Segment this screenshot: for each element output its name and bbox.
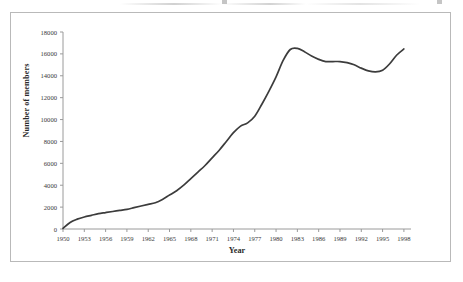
scan-artifact-streak — [120, 3, 420, 5]
x-axis-tick-label: 1956 — [99, 235, 113, 242]
figure-container: 0200040006000800010000120001400016000180… — [0, 0, 463, 282]
y-axis-tick-label: 12000 — [41, 94, 58, 101]
x-axis-title: Year — [63, 246, 411, 255]
x-axis-tick-label: 1977 — [248, 235, 262, 242]
data-series-line — [63, 48, 404, 228]
y-axis-tick-label: 6000 — [44, 160, 58, 167]
x-axis-tick-label: 1992 — [355, 235, 368, 242]
y-axis-tick-label: 16000 — [41, 50, 58, 57]
y-axis-tick-label: 8000 — [44, 138, 58, 145]
x-axis-tick-label: 1980 — [269, 235, 283, 242]
x-axis-tick-label: 1974 — [227, 235, 241, 242]
x-axis-tick-label: 1998 — [397, 235, 411, 242]
y-axis-tick-label: 10000 — [41, 116, 58, 123]
y-axis-tick-label: 4000 — [44, 182, 58, 189]
y-axis-tick-label: 18000 — [41, 29, 58, 36]
x-axis-tick-label: 1971 — [206, 235, 219, 242]
y-axis-tick-label: 2000 — [44, 204, 58, 211]
x-axis-tick-label: 1953 — [78, 235, 92, 242]
x-axis-tick-label: 1962 — [142, 235, 155, 242]
x-axis-tick-label: 1983 — [291, 235, 305, 242]
x-axis-tick-label: 1989 — [333, 235, 347, 242]
y-axis-tick-group: 0200040006000800010000120001400016000180… — [41, 29, 63, 233]
x-axis-tick-label: 1968 — [184, 235, 198, 242]
y-axis-tick-label: 14000 — [41, 72, 58, 79]
x-axis-tick-label: 1950 — [56, 235, 70, 242]
x-axis-tick-group: 1950195319561959196219651968197119741977… — [56, 229, 411, 242]
x-axis-tick-label: 1995 — [376, 235, 390, 242]
scan-artifact-dot-left — [222, 0, 227, 4]
x-axis-tick-label: 1986 — [312, 235, 326, 242]
line-chart: 0200040006000800010000120001400016000180… — [10, 12, 451, 262]
x-axis-tick-label: 1959 — [120, 235, 134, 242]
y-axis-tick-label: 0 — [54, 226, 58, 233]
scan-artifact-dot-right — [437, 0, 442, 4]
x-axis-tick-label: 1965 — [163, 235, 177, 242]
y-axis-title: Number of members — [22, 46, 31, 156]
